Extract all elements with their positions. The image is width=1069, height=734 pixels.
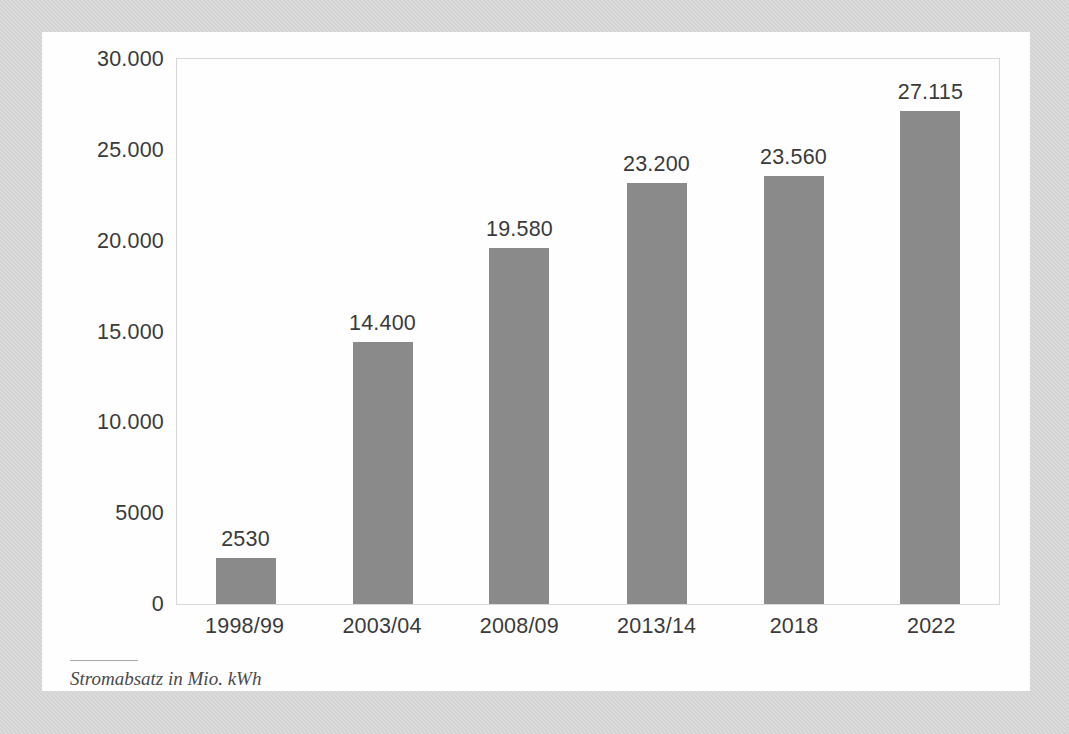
bar-value-label: 23.560: [760, 145, 827, 170]
bar-value-label: 27.115: [898, 80, 963, 105]
chart-card: 0 5000 10.000 15.000 20.000 25.000 30.00…: [42, 32, 1030, 691]
x-axis-tick-label: 1998/99: [205, 614, 284, 639]
x-axis-tick-label: 2003/04: [342, 614, 421, 639]
bar-slot: 23.560: [725, 59, 862, 604]
y-axis-tick-label: 10.000: [97, 410, 164, 435]
x-axis: 1998/99 2003/04 2008/09 2013/14 2018 202…: [176, 605, 1000, 645]
x-axis-tick-label: 2022: [907, 614, 956, 639]
x-axis-tick-label: 2018: [770, 614, 819, 639]
y-axis-tick-label: 25.000: [97, 137, 164, 162]
bar-2022[interactable]: [900, 111, 960, 604]
bar-series: 2530 14.400 19.580 23.200: [177, 59, 999, 604]
bar-slot: 23.200: [588, 59, 725, 604]
x-axis-tick-label: 2008/09: [480, 614, 559, 639]
chart-caption: Stromabsatz in Mio. kWh: [70, 668, 261, 690]
bar-2013-14[interactable]: [627, 183, 687, 604]
bar-value-label: 19.580: [486, 217, 553, 242]
bar-slot: 19.580: [451, 59, 588, 604]
bar-chart-figure: 0 5000 10.000 15.000 20.000 25.000 30.00…: [42, 32, 1030, 691]
bar-value-label: 14.400: [349, 311, 416, 336]
bar-slot: 27.115: [862, 59, 999, 604]
x-axis-tick-label: 2013/14: [617, 614, 696, 639]
y-axis-tick-label: 5000: [115, 501, 164, 526]
plot-area: 0 5000 10.000 15.000 20.000 25.000 30.00…: [176, 58, 1000, 605]
bar-2003-04[interactable]: [353, 342, 413, 604]
y-axis-tick-label: 20.000: [97, 228, 164, 253]
bar-2008-09[interactable]: [489, 248, 549, 604]
y-axis-tick-label: 15.000: [97, 319, 164, 344]
caption-divider: [70, 660, 138, 661]
bar-1998-99[interactable]: [216, 558, 276, 604]
bar-slot: 2530: [177, 59, 314, 604]
bar-2018[interactable]: [764, 176, 824, 604]
page-background: 0 5000 10.000 15.000 20.000 25.000 30.00…: [0, 0, 1069, 734]
y-axis-tick-label: 30.000: [97, 47, 164, 72]
bar-slot: 14.400: [314, 59, 451, 604]
bar-value-label: 23.200: [623, 152, 690, 177]
y-axis-tick-label: 0: [152, 592, 164, 617]
bar-value-label: 2530: [221, 527, 270, 552]
